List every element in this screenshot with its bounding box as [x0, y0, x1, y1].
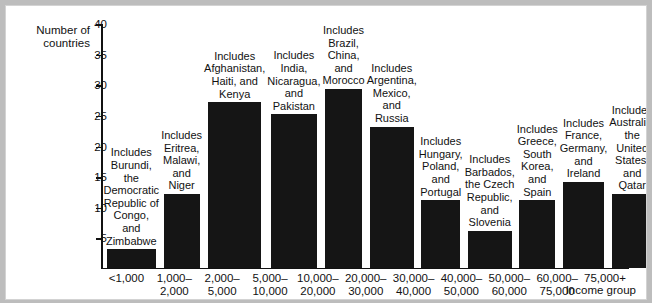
bar-annotation: Includes Eritrea, Malawi, and Niger — [160, 129, 203, 192]
y-axis-tick-label: 15 — [67, 171, 107, 183]
bar-annotation: Includes India, Nicaragua, and Pakistan — [266, 49, 321, 112]
x-axis-tick-label: 50,000– 60,000 — [485, 272, 533, 297]
y-axis-tick-mark — [96, 85, 101, 87]
bar-column: Includes Burundi, the Democratic Republi… — [103, 24, 161, 268]
x-axis-tick-label: 10,000– 20,000 — [294, 272, 342, 297]
y-axis-tick-label: 35 — [67, 49, 107, 61]
bar-column: Includes Hungary, Poland, and Portugal — [418, 24, 464, 268]
x-axis-tick-label: <1,000 — [103, 272, 151, 297]
x-axis-title: Income group — [566, 284, 636, 296]
bar-annotation: Includes Afghanistan, Haiti, and Kenya — [203, 50, 266, 100]
x-axis-tick-label: 20,000– 30,000 — [342, 272, 390, 297]
bar[interactable] — [164, 194, 200, 268]
bar-column: Includes Eritrea, Malawi, and Niger — [160, 24, 203, 268]
bar-annotation: Includes Australia, the United States, a… — [608, 104, 646, 192]
y-axis-tick-label: 20 — [67, 141, 107, 153]
bar[interactable] — [421, 200, 459, 267]
bar-column: Includes Argentina, Mexico, and Russia — [366, 24, 418, 268]
bar-column: Includes Afghanistan, Haiti, and Kenya — [203, 24, 266, 268]
bar[interactable] — [519, 200, 555, 267]
y-axis-tick-mark — [96, 116, 101, 118]
bar-column: Includes Australia, the United States, a… — [608, 24, 646, 268]
bar[interactable] — [271, 114, 317, 267]
bar[interactable] — [325, 89, 362, 268]
y-axis-tick-label: 25 — [67, 110, 107, 122]
x-axis-tick-label: 40,000– 50,000 — [438, 272, 486, 297]
bar-annotation: Includes Greece, South Korea, and Spain — [516, 123, 559, 199]
bar-annotation: Includes Brazil, China, and Morocco — [321, 24, 365, 87]
x-axis-tick-label: 30,000– 40,000 — [390, 272, 438, 297]
y-axis-tick-mark — [96, 147, 101, 149]
chart-figure: Number of countries 403530252015105 Incl… — [6, 6, 646, 299]
bar[interactable] — [370, 127, 414, 268]
bar-annotation: Includes Burundi, the Democratic Republi… — [103, 146, 161, 247]
bar-column: Includes France, Germany, and Ireland — [559, 24, 608, 268]
y-axis-tick-mark — [96, 55, 101, 57]
bar-column: Includes India, Nicaragua, and Pakistan — [266, 24, 321, 268]
bar[interactable] — [468, 231, 512, 268]
y-axis-tick-mark — [96, 208, 101, 210]
bar-column: Includes Greece, South Korea, and Spain — [516, 24, 559, 268]
x-axis-tick-label: 1,000– 2,000 — [150, 272, 198, 297]
bar[interactable] — [563, 182, 605, 268]
bar-column: Includes Brazil, China, and Morocco — [321, 24, 365, 268]
x-axis-tick-labels: <1,0001,000– 2,0002,000– 5,0005,000– 10,… — [103, 272, 630, 297]
bar-annotation: Includes Hungary, Poland, and Portugal — [418, 135, 464, 198]
y-axis-tick-label: 5 — [67, 232, 107, 244]
y-axis-tick-label: 40 — [67, 18, 107, 30]
y-axis-tick-label: 10 — [67, 202, 107, 214]
bar-annotation: Includes Barbados, the Czech Republic, a… — [464, 153, 516, 229]
y-axis-tick-mark — [96, 24, 101, 26]
bar-column: Includes Barbados, the Czech Republic, a… — [464, 24, 516, 268]
bar-series: Includes Burundi, the Democratic Republi… — [103, 24, 630, 268]
bar-annotation: Includes France, Germany, and Ireland — [559, 117, 608, 180]
x-axis-tick-label: 5,000– 10,000 — [246, 272, 294, 297]
x-axis-tick-label: 2,000– 5,000 — [198, 272, 246, 297]
y-axis-tick-mark — [96, 177, 101, 179]
bar[interactable] — [107, 249, 155, 267]
bar-annotation: Includes Argentina, Mexico, and Russia — [366, 62, 418, 125]
y-axis-tick-label: 30 — [67, 79, 107, 91]
bar[interactable] — [208, 102, 261, 267]
x-axis-line — [101, 268, 629, 270]
bar[interactable] — [612, 194, 646, 268]
y-axis-tick-mark — [96, 238, 101, 240]
plot-area: 403530252015105 Includes Burundi, the De… — [101, 24, 629, 269]
